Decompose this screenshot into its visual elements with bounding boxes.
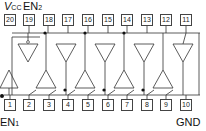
vcc-label: VCC <box>4 1 21 13</box>
pin-4: 4 <box>62 99 74 111</box>
pin-12: 12 <box>160 14 172 26</box>
en1-subscript: 1 <box>15 120 19 127</box>
pin-7: 7 <box>121 99 133 111</box>
pin-3: 3 <box>43 99 55 111</box>
vcc-subscript: CC <box>11 4 21 11</box>
pin-17: 17 <box>62 14 74 26</box>
pin-13: 13 <box>141 14 153 26</box>
pin-16: 16 <box>82 14 94 26</box>
pin-18: 18 <box>43 14 55 26</box>
pin-10: 10 <box>180 99 192 111</box>
pin-1: 1 <box>4 99 16 111</box>
pin-6: 6 <box>102 99 114 111</box>
gnd-label: GND <box>176 117 200 128</box>
en2-subscript: 2 <box>38 4 42 11</box>
pin-9: 9 <box>160 99 172 111</box>
en2-text: EN <box>23 0 38 12</box>
en1-text: EN <box>0 116 15 128</box>
pin-20: 20 <box>4 14 16 26</box>
pin-11: 11 <box>180 14 192 26</box>
en2-label: EN2 <box>23 1 42 13</box>
ic-logic-diagram: VCC EN2 20 19 18 17 16 15 14 13 12 11 1 … <box>0 0 206 131</box>
pin-14: 14 <box>121 14 133 26</box>
pin-8: 8 <box>141 99 153 111</box>
pin-15: 15 <box>102 14 114 26</box>
pin-2: 2 <box>23 99 35 111</box>
pin-19: 19 <box>23 14 35 26</box>
en1-label: EN1 <box>0 117 19 129</box>
pin-5: 5 <box>82 99 94 111</box>
